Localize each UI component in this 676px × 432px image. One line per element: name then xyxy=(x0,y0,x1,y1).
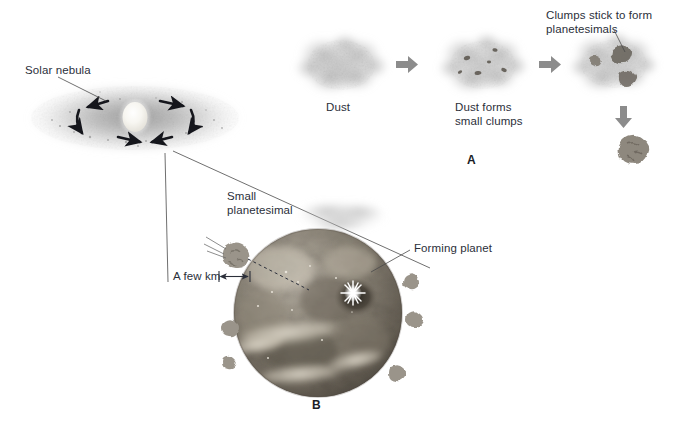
label-dust-forms-clumps-line2: small clumps xyxy=(455,115,523,129)
impact-flash-icon xyxy=(341,281,365,305)
panel-a-clumps-cloud xyxy=(437,32,529,94)
label-forming-planet: Forming planet xyxy=(414,242,492,256)
forming-planet xyxy=(227,229,402,397)
label-a-few-km: A few km xyxy=(173,270,220,284)
solar-nebula-disk xyxy=(27,82,243,154)
small-planetesimal xyxy=(223,243,251,269)
label-clumps-stick-line2: planetesimals xyxy=(546,23,618,37)
planetesimal-motion-lines xyxy=(204,237,226,258)
panel-a-arrow-2 xyxy=(539,56,561,73)
panel-letter-a: A xyxy=(467,153,476,167)
label-small-planetesimal-line1: Small xyxy=(227,190,256,204)
label-small-planetesimal-line2: planetesimal xyxy=(227,204,293,218)
panel-a-result-planetesimal xyxy=(619,135,650,164)
panel-a-dust-cloud xyxy=(294,33,389,94)
label-solar-nebula: Solar nebula xyxy=(25,64,91,78)
label-clumps-stick-line1: Clumps stick to form xyxy=(546,9,652,23)
panel-a-planetesimal-cloud xyxy=(568,30,659,93)
panel-b-ambient-dust-cloud xyxy=(296,200,388,233)
panel-letter-b: B xyxy=(312,398,321,412)
diagram-canvas xyxy=(0,0,676,432)
label-dust-forms-clumps-line1: Dust forms xyxy=(455,101,512,115)
planet-formation-figure: Solar nebula Dust Dust forms small clump… xyxy=(0,0,676,432)
panel-a-down-arrow xyxy=(615,106,632,128)
label-dust: Dust xyxy=(326,101,350,115)
panel-a-arrow-1 xyxy=(396,56,418,73)
